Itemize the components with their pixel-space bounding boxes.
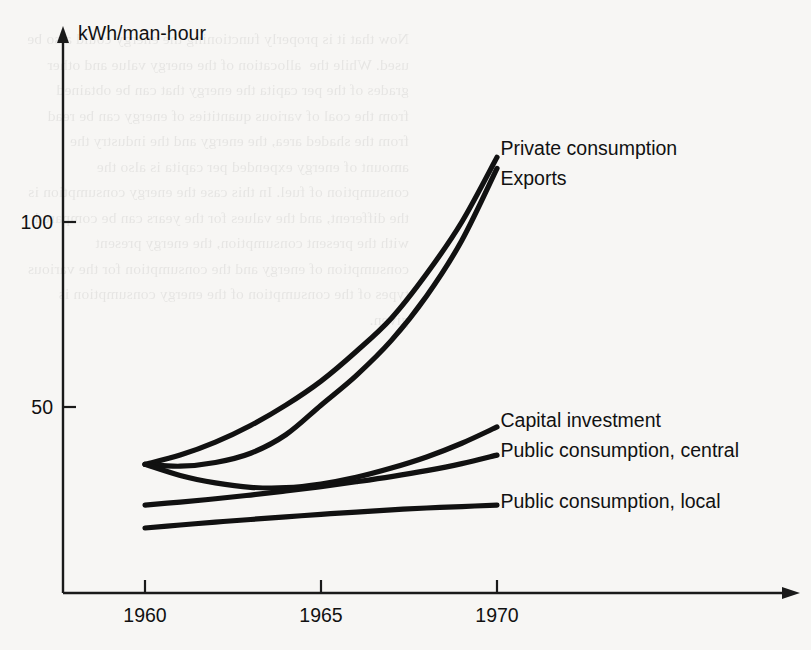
x-axis-arrowhead xyxy=(782,587,800,599)
x-tick-label: 1960 xyxy=(123,604,167,626)
x-axis-ticks: 196019651970 xyxy=(123,580,519,626)
line-chart: kWh/man-hour 50100 196019651970 Private … xyxy=(0,0,811,650)
series-labels: Private consumptionExportsCapital invest… xyxy=(501,137,739,512)
series-line-1 xyxy=(145,168,497,466)
series-label-2: Capital investment xyxy=(501,409,662,431)
x-tick-label: 1970 xyxy=(475,604,519,626)
series-line-4 xyxy=(145,505,497,528)
chart-axes xyxy=(57,26,800,599)
series-line-2 xyxy=(145,427,497,488)
y-tick-label: 50 xyxy=(31,396,53,418)
series-label-1: Exports xyxy=(501,167,567,189)
y-axis-arrowhead xyxy=(57,26,69,43)
y-axis-ticks: 50100 xyxy=(20,211,76,418)
chart-page: Now that it is properly functioning the … xyxy=(0,0,811,650)
series-lines xyxy=(145,157,497,528)
series-label-3: Public consumption, central xyxy=(501,439,739,461)
y-axis-title: kWh/man-hour xyxy=(78,22,206,44)
series-line-0 xyxy=(145,157,497,464)
series-label-4: Public consumption, local xyxy=(501,490,721,512)
series-label-0: Private consumption xyxy=(501,137,678,159)
x-tick-label: 1965 xyxy=(299,604,343,626)
y-tick-label: 100 xyxy=(20,211,53,233)
